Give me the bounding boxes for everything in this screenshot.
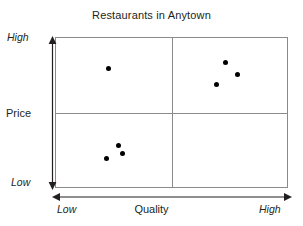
- data-point: [214, 82, 219, 87]
- x-axis-title: Quality: [0, 203, 303, 215]
- data-point: [235, 72, 240, 77]
- data-point: [116, 143, 121, 148]
- chart-title: Restaurants in Anytown: [0, 9, 303, 21]
- chart-canvas: Restaurants in Anytown High Price Low Lo…: [0, 0, 303, 226]
- y-axis-title: Price: [6, 107, 31, 119]
- data-point: [106, 66, 111, 71]
- y-axis-high-label: High: [7, 31, 29, 43]
- x-axis-high-label: High: [259, 203, 281, 215]
- y-axis-low-label: Low: [11, 176, 30, 188]
- data-point: [223, 60, 228, 65]
- quadrant-divider-horizontal: [56, 113, 287, 114]
- data-point: [120, 151, 125, 156]
- plot-area: [55, 37, 288, 188]
- x-axis-arrow: [52, 192, 292, 202]
- data-point: [104, 156, 109, 161]
- y-axis-arrow: [48, 36, 57, 190]
